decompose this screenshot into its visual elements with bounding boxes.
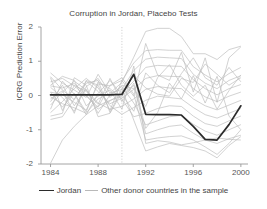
- x-tick-label: 1992: [129, 168, 163, 177]
- legend-label-other: Other donor countries in the sample: [101, 186, 228, 195]
- chart-legend: Jordan Other donor countries in the samp…: [0, 186, 267, 195]
- plot-area: [0, 0, 267, 209]
- legend-entry-jordan: Jordan: [39, 186, 81, 195]
- y-tick-label: 2: [17, 22, 33, 31]
- y-tick-label: 0: [17, 91, 33, 100]
- x-tick-label: 2000: [224, 168, 258, 177]
- x-tick-label: 1988: [81, 168, 115, 177]
- y-tick-label: -2: [17, 159, 33, 168]
- chart-figure: Corruption in Jordan, Placebo Tests ICRG…: [0, 0, 267, 209]
- legend-label-jordan: Jordan: [57, 186, 81, 195]
- x-tick-label: 1996: [176, 168, 210, 177]
- legend-swatch-jordan: [39, 190, 54, 191]
- legend-entry-other: Other donor countries in the sample: [85, 186, 228, 195]
- x-tick-label: 1984: [34, 168, 68, 177]
- y-tick-label: 1: [17, 56, 33, 65]
- legend-swatch-other: [85, 190, 98, 191]
- y-tick-label: -1: [17, 125, 33, 134]
